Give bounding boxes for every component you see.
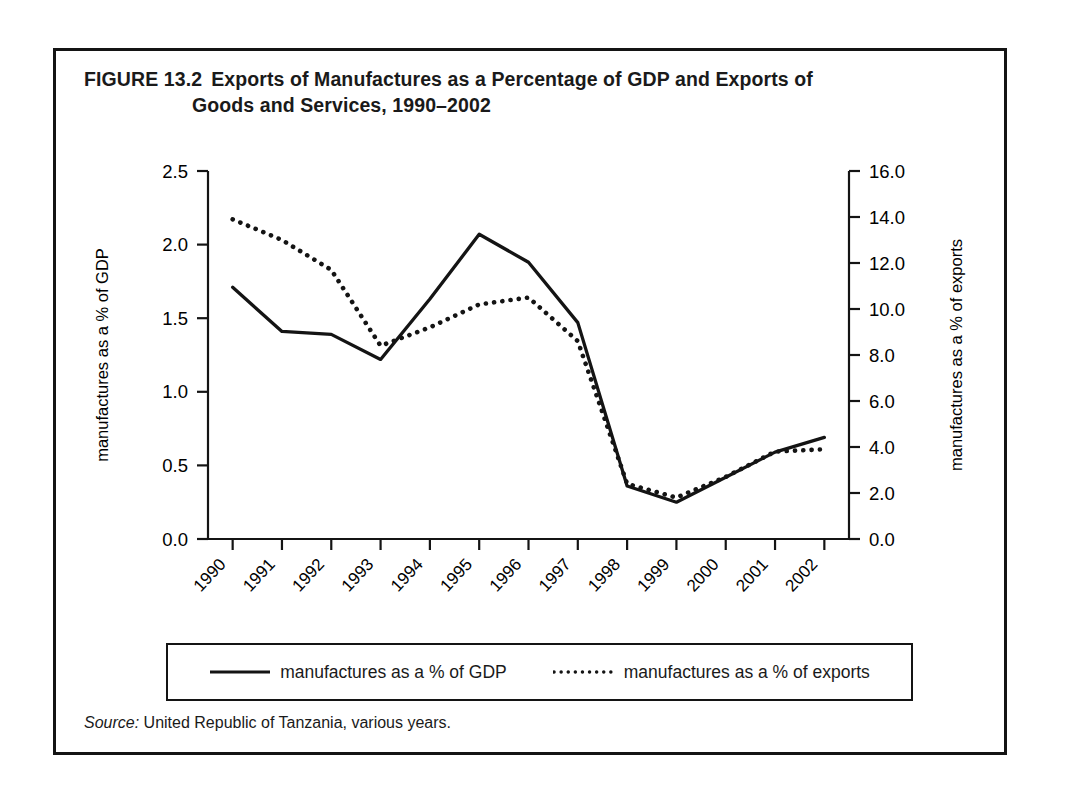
right-tick-label: 12.0 bbox=[869, 253, 905, 274]
x-tick-label: 1996 bbox=[486, 555, 526, 596]
x-tick-label: 2001 bbox=[732, 555, 772, 596]
figure-title-line-1: Exports of Manufactures as a Percentage … bbox=[211, 68, 813, 90]
figure-title: FIGURE 13.2Exports of Manufactures as a … bbox=[84, 67, 964, 118]
x-tick-label: 1990 bbox=[190, 555, 230, 596]
legend-label-exports: manufactures as a % of exports bbox=[624, 662, 870, 683]
line-chart: 0.00.51.01.52.02.5 0.02.04.06.08.010.012… bbox=[56, 129, 1010, 689]
figure-title-line-2: Goods and Services, 1990–2002 bbox=[192, 93, 964, 119]
legend-swatch-solid bbox=[209, 666, 271, 678]
x-tick-label: 1995 bbox=[436, 555, 476, 596]
x-tick-label: 2000 bbox=[683, 555, 723, 596]
legend-item-exports[interactable]: manufactures as a % of exports bbox=[553, 662, 870, 683]
plot-area: 0.00.51.01.52.02.5 0.02.04.06.08.010.012… bbox=[56, 129, 1010, 689]
right-tick-label: 16.0 bbox=[869, 161, 905, 182]
left-tick-label: 1.0 bbox=[162, 381, 188, 402]
left-tick-label: 2.5 bbox=[162, 161, 188, 182]
figure-number: FIGURE 13.2 bbox=[84, 68, 202, 90]
x-tick-label: 1992 bbox=[289, 555, 329, 596]
right-tick-label: 14.0 bbox=[869, 207, 905, 228]
source-note: Source: United Republic of Tanzania, var… bbox=[84, 714, 451, 732]
series-line-0 bbox=[233, 234, 825, 502]
right-axis-ticks: 0.02.04.06.08.010.012.014.016.0 bbox=[849, 161, 905, 550]
right-tick-label: 10.0 bbox=[869, 299, 905, 320]
x-tick-label: 1991 bbox=[239, 555, 279, 596]
left-tick-label: 0.5 bbox=[162, 455, 188, 476]
right-tick-label: 0.0 bbox=[869, 529, 895, 550]
chart-legend: manufactures as a % of GDP manufactures … bbox=[166, 643, 913, 701]
x-tick-label: 1993 bbox=[338, 555, 378, 596]
right-tick-label: 6.0 bbox=[869, 391, 895, 412]
x-tick-label: 2002 bbox=[782, 555, 822, 596]
legend-label-gdp: manufactures as a % of GDP bbox=[280, 662, 507, 683]
source-text: United Republic of Tanzania, various yea… bbox=[139, 714, 451, 731]
right-tick-label: 8.0 bbox=[869, 345, 895, 366]
chart-axes bbox=[208, 171, 849, 539]
left-tick-label: 2.0 bbox=[162, 234, 188, 255]
chart-series-group bbox=[233, 219, 825, 502]
legend-swatch-dotted bbox=[553, 666, 615, 678]
left-axis-title: manufactures as a % of GDP bbox=[93, 248, 111, 462]
x-tick-label: 1997 bbox=[535, 555, 575, 596]
right-tick-label: 2.0 bbox=[869, 483, 895, 504]
source-label: Source: bbox=[84, 714, 139, 731]
figure-container: FIGURE 13.2Exports of Manufactures as a … bbox=[53, 48, 1007, 755]
legend-item-gdp[interactable]: manufactures as a % of GDP bbox=[209, 662, 507, 683]
x-axis-ticks: 1990199119921993199419951996199719981999… bbox=[190, 539, 824, 595]
left-tick-label: 0.0 bbox=[162, 529, 188, 550]
right-axis-title: manufactures as a % of exports bbox=[947, 239, 965, 471]
x-tick-label: 1999 bbox=[634, 555, 674, 596]
left-axis-ticks: 0.00.51.01.52.02.5 bbox=[162, 161, 208, 550]
x-tick-label: 1998 bbox=[584, 555, 624, 596]
right-tick-label: 4.0 bbox=[869, 437, 895, 458]
left-tick-label: 1.5 bbox=[162, 308, 188, 329]
x-tick-label: 1994 bbox=[387, 555, 427, 596]
